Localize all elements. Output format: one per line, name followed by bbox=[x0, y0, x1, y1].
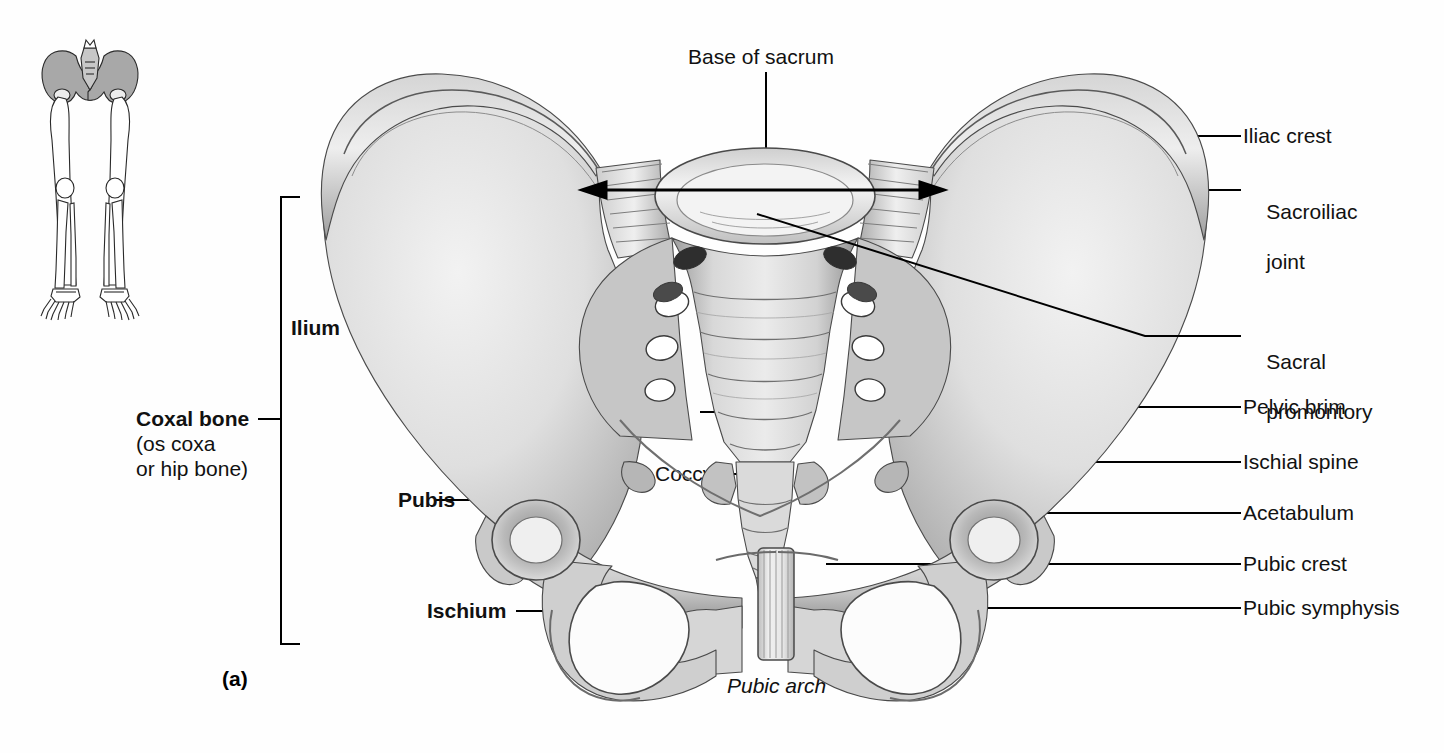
label-pubic-arch: Pubic arch bbox=[727, 673, 826, 698]
label-sacroiliac-joint-line1: Sacroiliac bbox=[1266, 200, 1357, 223]
leader-base-of-sacrum bbox=[765, 72, 767, 200]
leader-ischial-spine bbox=[895, 461, 1241, 463]
lower-limb-skeleton-orientation-thumbnail bbox=[41, 40, 139, 320]
label-sacral-promontory: Sacral promontory bbox=[1243, 324, 1373, 449]
label-acetabulum: Acetabulum bbox=[1243, 500, 1354, 525]
label-coxal-bone-sub2: or hip bone) bbox=[136, 456, 248, 481]
leader-ischium bbox=[516, 610, 626, 612]
leader-sacrum bbox=[700, 411, 780, 413]
label-pubic-symphysis: Pubic symphysis bbox=[1243, 595, 1399, 620]
coxal-bone-bracket-top-arm bbox=[280, 196, 300, 198]
label-pubis: Pubis bbox=[398, 487, 455, 512]
leader-sacral-promontory-svg bbox=[0, 0, 1444, 753]
label-pelvic-brim: Pelvic brim bbox=[1243, 394, 1346, 419]
label-ischium: Ischium bbox=[427, 598, 506, 623]
leader-coxal-bone bbox=[258, 418, 282, 420]
leader-pubic-crest bbox=[826, 563, 1241, 565]
coxal-bone-bracket-stem bbox=[280, 196, 282, 645]
leader-pubis bbox=[436, 499, 582, 501]
pelvis-anatomy-figure: Base of sacrum Ilium Coxal bone (os coxa… bbox=[0, 0, 1444, 753]
leader-coccyx bbox=[728, 473, 776, 475]
label-ischial-spine: Ischial spine bbox=[1243, 449, 1359, 474]
leader-ilium bbox=[352, 327, 485, 329]
coxal-bone-bracket-bottom-arm bbox=[280, 643, 300, 645]
label-sacroiliac-joint: Sacroiliac joint bbox=[1243, 174, 1357, 299]
label-coxal-bone-sub1: (os coxa bbox=[136, 431, 215, 456]
leader-acetabulum bbox=[1000, 512, 1241, 514]
label-pubic-crest: Pubic crest bbox=[1243, 551, 1347, 576]
label-base-of-sacrum: Base of sacrum bbox=[688, 44, 834, 69]
label-sacral-promontory-line1: Sacral bbox=[1266, 350, 1326, 373]
sacroiliac-span-arrow bbox=[582, 182, 944, 198]
leader-sacroiliac-joint bbox=[944, 189, 1241, 191]
label-sacroiliac-joint-line2: joint bbox=[1266, 250, 1305, 273]
pelvis-illustration bbox=[0, 0, 1444, 753]
leader-iliac-crest bbox=[1183, 135, 1241, 137]
figure-caption: (a) bbox=[222, 667, 248, 691]
label-coxal-bone: Coxal bone bbox=[136, 406, 249, 431]
label-coccyx: Coccyx bbox=[655, 461, 724, 486]
label-iliac-crest: Iliac crest bbox=[1243, 123, 1332, 148]
label-sacrum: Sacrum bbox=[600, 399, 672, 424]
label-ilium: Ilium bbox=[291, 315, 340, 340]
leader-pelvic-brim bbox=[950, 406, 1241, 408]
leader-pubic-symphysis bbox=[782, 607, 1241, 609]
orientation-thumbnail-svg bbox=[0, 0, 1444, 753]
label-iliac-fossa: Iliac fossa bbox=[1012, 219, 1105, 244]
